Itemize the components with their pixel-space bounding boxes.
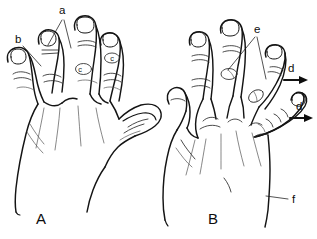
figure-root: a b c c A — [0, 0, 317, 239]
panel-letter-b: B — [208, 210, 218, 227]
label-b: b — [15, 33, 21, 45]
label-a: a — [59, 4, 66, 16]
label-d-lower: d — [296, 100, 302, 112]
label-d-upper: d — [288, 62, 294, 74]
label-e: e — [254, 23, 260, 35]
figure-background — [0, 0, 317, 239]
panel-letter-a: A — [36, 210, 46, 227]
label-c-index: c — [78, 65, 82, 74]
hand-illustration-svg: a b c c A — [0, 0, 317, 239]
label-c-middle: c — [110, 54, 114, 63]
